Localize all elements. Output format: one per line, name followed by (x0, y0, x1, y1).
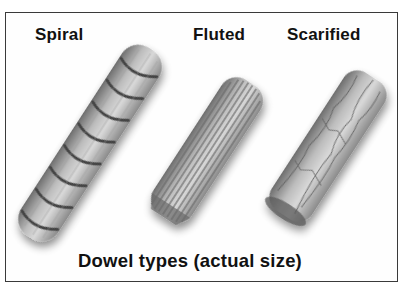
figure-caption: Dowel types (actual size) (78, 250, 302, 272)
fluted-label: Fluted (193, 25, 245, 45)
fluted-dowel-icon (144, 70, 270, 229)
spiral-dowel-icon (11, 37, 170, 249)
scarified-label: Scarified (287, 25, 361, 45)
spiral-label: Spiral (35, 25, 83, 45)
scarified-dowel-icon (261, 64, 393, 231)
